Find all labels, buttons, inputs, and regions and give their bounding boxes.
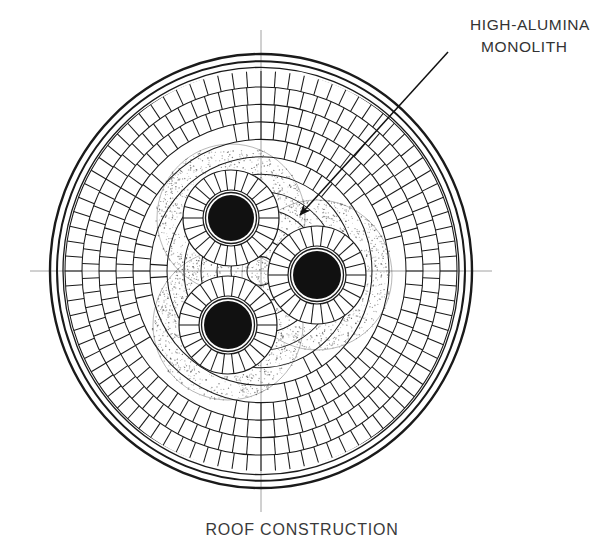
stipple-dot [187, 173, 188, 174]
stipple-dot [193, 166, 194, 167]
brick-joint [122, 155, 135, 166]
stipple-dot [316, 211, 317, 212]
stipple-dot [276, 310, 277, 311]
roof-construction-diagram: HIGH-ALUMINA MONOLITH ROOF CONSTRUCTION [0, 0, 605, 557]
stipple-dot [328, 212, 329, 213]
stipple-dot [169, 211, 170, 212]
stipple-dot [290, 351, 292, 353]
stipple-dot [353, 332, 354, 333]
stipple-dot [304, 331, 305, 332]
stipple-dot [171, 219, 172, 220]
brick-joint [317, 370, 326, 385]
stipple-dot [174, 319, 175, 320]
stipple-dot [341, 335, 342, 336]
stipple-dot [187, 180, 188, 181]
stipple-dot [201, 166, 202, 167]
stipple-dot [298, 200, 299, 201]
stipple-dot [348, 210, 349, 211]
stipple-dot [253, 266, 254, 267]
brick-joint [234, 400, 237, 417]
stipple-dot [266, 360, 267, 361]
stipple-dot [325, 324, 326, 325]
stipple-dot [289, 320, 290, 321]
stipple-dot [235, 271, 237, 273]
stipple-dot [361, 216, 363, 218]
stipple-dot [261, 177, 262, 178]
stipple-dot [329, 206, 330, 207]
stipple-dot [192, 369, 193, 370]
brick-joint [109, 322, 125, 328]
stipple-dot [382, 257, 383, 258]
stipple-dot [295, 197, 296, 198]
stipple-dot [345, 321, 346, 322]
brick-joint [94, 330, 110, 336]
brick-joint [284, 142, 288, 159]
brick-joint [373, 415, 384, 429]
stipple-dot [281, 346, 282, 347]
stipple-dot [372, 286, 374, 288]
stipple-dot [335, 321, 337, 323]
stipple-dot [324, 204, 325, 205]
stipple-dot [209, 374, 210, 375]
stipple-dot [161, 209, 162, 210]
stipple-dot [281, 333, 283, 335]
brick-joint [405, 256, 422, 258]
stipple-dot [262, 257, 264, 259]
stipple-dot [163, 331, 164, 332]
stipple-dot [175, 182, 177, 184]
brick-joint [274, 105, 275, 122]
stipple-dot [363, 318, 364, 319]
stipple-dot [264, 272, 265, 273]
brick-joint [178, 108, 186, 123]
stipple-dot [180, 377, 181, 378]
annotation-label-line2: MONOLITH [481, 38, 568, 55]
stipple-dot [356, 315, 358, 317]
stipple-dot [298, 191, 299, 192]
stipple-dot [223, 151, 224, 152]
brick-joint [108, 386, 121, 397]
brick-joint [330, 382, 339, 397]
stipple-dot [327, 216, 328, 217]
stipple-dot [198, 384, 199, 385]
stipple-dot [264, 386, 265, 387]
stipple-dot [184, 366, 185, 367]
stipple-dot [375, 277, 376, 278]
brick-joint [134, 257, 151, 259]
stipple-dot [273, 377, 274, 378]
stipple-dot [368, 223, 369, 224]
stipple-dot [369, 254, 371, 256]
brick-joint [91, 363, 106, 372]
stipple-dot [251, 161, 252, 162]
stipple-dot [171, 178, 173, 180]
brick-joint [401, 386, 414, 397]
stipple-dot [354, 234, 355, 235]
brick-joint [99, 157, 113, 167]
stipple-dot [290, 179, 291, 180]
stipple-dot [295, 213, 297, 215]
stipple-dot [388, 277, 389, 278]
stipple-dot [180, 212, 181, 213]
brick-joint [84, 184, 99, 192]
brick-joint [422, 351, 437, 359]
stipple-dot [262, 389, 263, 390]
stipple-dot [331, 218, 332, 219]
brick-joint [180, 400, 189, 415]
stipple-dot [196, 373, 197, 374]
stipple-dot [182, 261, 184, 263]
stipple-dot [162, 335, 163, 336]
stipple-dot [364, 322, 365, 323]
brick-joint [362, 104, 372, 118]
stipple-dot [354, 228, 355, 229]
brick-joint [122, 376, 135, 387]
stipple-dot [174, 360, 176, 362]
stipple-dot [163, 232, 164, 233]
stipple-dot [294, 350, 295, 351]
stipple-dot [242, 387, 243, 388]
brick-joint [146, 376, 158, 388]
brick-joint [334, 127, 343, 142]
stipple-dot [180, 246, 181, 247]
brick-joint [66, 256, 83, 257]
stipple-dot [279, 324, 280, 325]
stipple-dot [291, 197, 292, 198]
stipple-dot [218, 383, 220, 385]
